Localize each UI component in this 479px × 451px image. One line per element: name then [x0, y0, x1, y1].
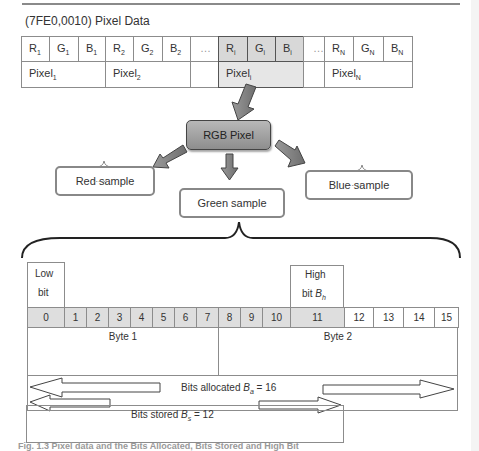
- bit-cell: 11: [290, 307, 345, 328]
- brace-green-icon: [22, 222, 460, 258]
- bit-cell: 3: [108, 307, 131, 328]
- rgb-pixel-label: RGB Pixel: [203, 129, 254, 141]
- green-sample-node: Green sample: [179, 188, 285, 218]
- bit-cell: 14: [403, 307, 435, 328]
- bit-cell: 12: [344, 307, 374, 328]
- page-edge: [471, 0, 479, 451]
- bit-cell: 2: [86, 307, 109, 328]
- green-sample-label: Green sample: [197, 197, 266, 209]
- high-bit-label: High bit Bh: [290, 265, 344, 308]
- bit-cell: 13: [373, 307, 404, 328]
- bit-cell: 6: [174, 307, 197, 328]
- red-ellipsis: .....: [93, 174, 106, 184]
- byte1-cell: Byte 1: [27, 327, 219, 376]
- arrow-to-green-icon: [221, 154, 238, 180]
- low-bit-line2: bit: [38, 287, 49, 298]
- low-bit-line1: Low: [35, 268, 53, 279]
- high-bit-line1: High: [305, 269, 326, 280]
- bit-cell: 9: [240, 307, 263, 328]
- high-bit-line2: bit Bh: [302, 288, 326, 301]
- bit-cell: 15: [434, 307, 459, 328]
- bits-stored-bar: Bits stored Bs = 12: [26, 405, 344, 443]
- bit-cell: 0: [27, 307, 65, 328]
- figure-caption: Fig. 1.3 Pixel data and the Bits Allocat…: [18, 441, 299, 451]
- bits-stored-label: Bits stored Bs = 12: [131, 409, 214, 422]
- bit-cell: 5: [152, 307, 175, 328]
- bit-cell: 8: [218, 307, 241, 328]
- arrow-to-red-icon: [153, 145, 187, 168]
- bits-allocated-label: Bits allocated Ba = 16: [181, 382, 276, 395]
- bit-cell: 10: [262, 307, 291, 328]
- byte2-label: Byte 2: [219, 331, 457, 342]
- bit-cell: 7: [196, 307, 219, 328]
- blue-ellipsis: .....: [349, 178, 362, 188]
- bit-cell: 4: [130, 307, 153, 328]
- bit-cell: 1: [64, 307, 87, 328]
- rgb-pixel-node: RGB Pixel: [186, 120, 271, 150]
- low-bit-label: Low bit: [27, 262, 65, 308]
- byte1-label: Byte 1: [28, 331, 218, 342]
- arrow-pixel-to-rgb-icon: [232, 84, 256, 120]
- byte2-cell: Byte 2: [218, 327, 458, 376]
- arrow-to-blue-icon: [275, 140, 305, 167]
